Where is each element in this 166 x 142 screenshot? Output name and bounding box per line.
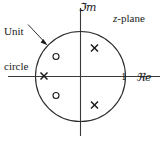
pole-zero-plot-figure: Unit circle ℑm ℜе z-plane 1 [0, 0, 166, 142]
pole-marker [91, 45, 98, 52]
z-plane-label: z-plane [113, 13, 145, 25]
imaginary-axis-label: ℑm [78, 2, 96, 14]
unit-circle-label-line1: Unit [4, 26, 28, 38]
real-axis-label: ℜе [136, 72, 152, 84]
z-plane-suffix: -plane [117, 12, 144, 24]
unit-circle-label-line2: circle [4, 61, 28, 73]
pole-marker [91, 102, 98, 109]
unit-circle-annotation-arrow [28, 25, 48, 46]
zero-marker [53, 54, 59, 60]
zero-marker [53, 93, 59, 99]
unit-circle-annotation-label: Unit circle [4, 2, 28, 97]
real-axis-tick-one: 1 [121, 71, 127, 83]
